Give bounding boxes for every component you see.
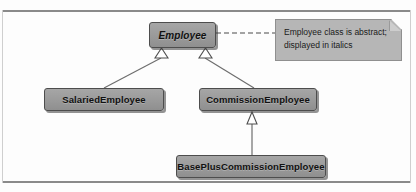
generalization-line-salaried-to-employee: [104, 58, 161, 88]
generalization-line-commission-to-employee: [205, 58, 254, 88]
class-box-salaried-employee[interactable]: SalariedEmployee: [44, 88, 164, 111]
figure-frame-bottom-rule: [2, 181, 411, 183]
figure-frame-left-rule: [2, 10, 3, 183]
class-name-commission-employee: CommissionEmployee: [206, 94, 310, 105]
class-name-salaried-employee: SalariedEmployee: [62, 94, 145, 105]
note-text-line-2: displayed in italics: [284, 39, 395, 52]
note-folded-corner-icon: [389, 20, 401, 31]
figure-frame-top-rule: [2, 10, 411, 12]
uml-class-diagram: Employee SalariedEmployee CommissionEmpl…: [0, 0, 416, 192]
class-box-employee[interactable]: Employee: [149, 22, 216, 48]
figure-frame-right-rule: [410, 10, 411, 183]
note-text-line-1: Employee class is abstract;: [284, 26, 395, 39]
generalization-arrowhead-baseplus-to-commission: [247, 112, 257, 124]
class-box-commission-employee[interactable]: CommissionEmployee: [199, 88, 317, 111]
generalization-arrowhead-salaried-to-employee: [155, 48, 168, 58]
class-name-baseplus-commission-employee: BasePlusCommissionEmployee: [177, 161, 324, 172]
class-name-employee: Employee: [158, 30, 206, 41]
generalization-arrowhead-commission-to-employee: [199, 48, 212, 58]
uml-note-employee-abstract[interactable]: Employee class is abstract; displayed in…: [275, 19, 402, 61]
class-box-baseplus-commission-employee[interactable]: BasePlusCommissionEmployee: [176, 155, 326, 178]
